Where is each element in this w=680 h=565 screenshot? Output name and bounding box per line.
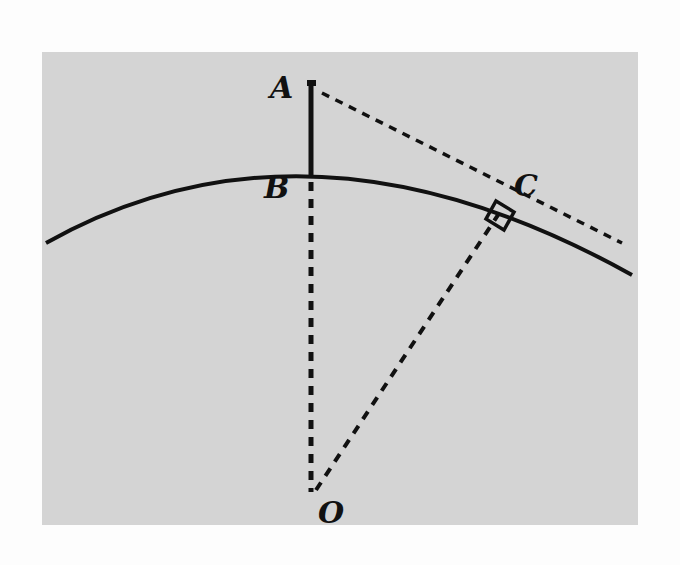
segment-oc (316, 212, 500, 490)
label-c: C (514, 168, 538, 203)
tangent-line-ac (322, 93, 622, 243)
label-b: B (263, 170, 289, 205)
circle-arc (46, 176, 632, 275)
diagram-canvas: A B C O (0, 0, 680, 565)
label-o: O (318, 495, 344, 530)
point-a-dot (307, 80, 316, 86)
geometry-figure: A B C O (0, 0, 680, 565)
label-a: A (267, 70, 293, 105)
